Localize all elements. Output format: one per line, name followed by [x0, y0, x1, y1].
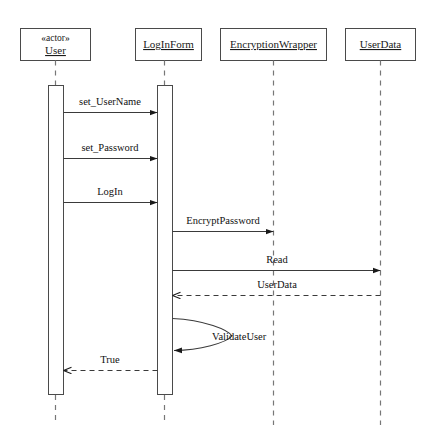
sequence-diagram-canvas: «actor» User LogInForm EncryptionWrapper…	[0, 0, 439, 443]
message-label-true-return: True	[100, 354, 120, 365]
message-label-set-password: set_Password	[81, 142, 139, 153]
lifeline-name-encryptionwrapper: EncryptionWrapper	[230, 38, 317, 50]
message-true-return[interactable]: True	[64, 354, 158, 371]
message-userdata-return[interactable]: UserData	[173, 279, 381, 296]
lifeline-stereotype-user: «actor»	[41, 33, 70, 43]
message-set-password[interactable]: set_Password	[64, 142, 158, 159]
lifeline-headers: «actor» User LogInForm EncryptionWrapper…	[21, 29, 416, 61]
message-validate-user[interactable]: ValidateUser	[173, 319, 267, 351]
message-encrypt-password[interactable]: EncryptPassword	[173, 215, 274, 232]
message-label-encrypt-password: EncryptPassword	[186, 215, 260, 226]
lifeline-header-encryptionwrapper[interactable]: EncryptionWrapper	[221, 29, 327, 61]
lifeline-name-user: User	[45, 44, 66, 56]
lifeline-header-user[interactable]: «actor» User	[21, 29, 91, 61]
activation-bar-user[interactable]	[49, 86, 64, 395]
message-login[interactable]: LogIn	[64, 186, 158, 203]
lifeline-dashed-lines	[56, 61, 381, 426]
message-label-userdata-return: UserData	[257, 279, 297, 290]
message-label-login: LogIn	[97, 186, 123, 197]
message-label-validate-user: ValidateUser	[212, 331, 267, 342]
lifeline-name-loginform: LogInForm	[143, 38, 194, 50]
messages: set_UserName set_Password LogIn EncryptP…	[64, 96, 381, 371]
lifeline-header-loginform[interactable]: LogInForm	[136, 29, 202, 61]
lifeline-header-userdata[interactable]: UserData	[346, 29, 416, 61]
activation-bars	[49, 86, 173, 395]
message-read[interactable]: Read	[173, 254, 381, 271]
message-label-read: Read	[266, 254, 288, 265]
activation-bar-loginform[interactable]	[158, 86, 173, 395]
message-label-set-username: set_UserName	[79, 96, 141, 107]
lifeline-name-userdata: UserData	[360, 38, 402, 50]
message-set-username[interactable]: set_UserName	[64, 96, 158, 113]
sequence-diagram-svg: «actor» User LogInForm EncryptionWrapper…	[0, 0, 439, 443]
